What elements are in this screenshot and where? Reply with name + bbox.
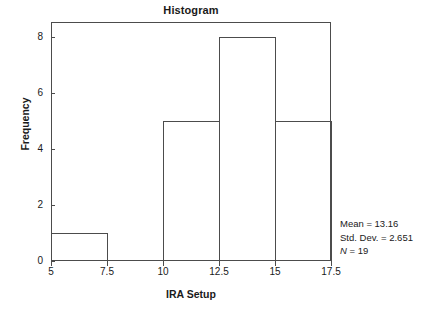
axis-ticks-group — [51, 37, 331, 266]
x-axis-tick-label: 5 — [31, 267, 71, 277]
stat-n-symbol: N — [340, 245, 347, 256]
x-axis-tick-label: 12.5 — [199, 267, 239, 277]
stat-mean: Mean = 13.16 — [340, 217, 413, 231]
stat-n-value: = 19 — [347, 245, 368, 256]
y-axis-tick-label: 8 — [17, 32, 43, 42]
chart-title: Histogram — [51, 4, 331, 17]
y-axis-title: Frequency — [19, 79, 31, 169]
histogram-bars-layer — [51, 22, 331, 261]
histogram-bar — [51, 233, 107, 261]
histogram-bar — [275, 121, 331, 261]
histogram-bar — [219, 37, 275, 261]
x-axis-tick-label: 7.5 — [87, 267, 127, 277]
bars-group — [51, 37, 331, 261]
histogram-chart: Histogram 02468 57.51012.51517.5 Frequen… — [0, 0, 447, 315]
y-axis-tick-label: 0 — [17, 256, 43, 266]
stat-std-dev: Std. Dev. = 2.651 — [340, 231, 413, 245]
statistics-annotation: Mean = 13.16 Std. Dev. = 2.651 N = 19 — [340, 217, 413, 258]
y-axis-tick-label: 2 — [17, 200, 43, 210]
x-axis-tick-label: 10 — [143, 267, 183, 277]
x-axis-title: IRA Setup — [51, 288, 331, 300]
x-axis-tick-label: 17.5 — [311, 267, 351, 277]
histogram-bar — [163, 121, 219, 261]
stat-n: N = 19 — [340, 244, 413, 258]
x-axis-tick-label: 15 — [255, 267, 295, 277]
